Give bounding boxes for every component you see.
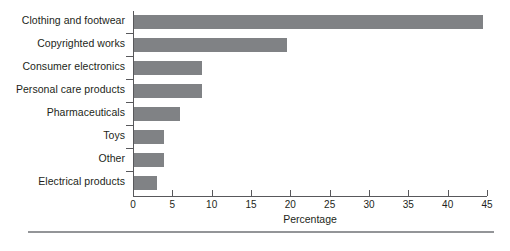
x-axis-tick-label: 40	[428, 199, 468, 211]
x-axis-tick	[251, 190, 252, 196]
x-axis-tick	[330, 190, 331, 196]
x-axis-tick	[133, 190, 134, 196]
x-axis-tick-label: 5	[152, 199, 192, 211]
x-axis-tick	[408, 190, 409, 196]
x-axis-tick-label: 45	[467, 199, 507, 211]
figure-bar-chart-counterfeit-goods: Clothing and footwear Copyrighted works …	[0, 0, 510, 251]
x-axis-tick-label: 35	[388, 199, 428, 211]
x-axis-tick	[290, 190, 291, 196]
chart-plot-area: Clothing and footwear Copyrighted works …	[0, 0, 510, 251]
x-axis-tick-label: 30	[349, 199, 389, 211]
x-axis-tick-label: 0	[113, 199, 153, 211]
figure-divider-rule	[28, 231, 494, 233]
x-axis-tick	[212, 190, 213, 196]
x-axis-tick-label: 10	[192, 199, 232, 211]
x-axis-tick	[448, 190, 449, 196]
x-axis-tick-label: 15	[231, 199, 271, 211]
x-axis-tick-label: 25	[310, 199, 350, 211]
x-axis-tick	[369, 190, 370, 196]
x-axis-title: Percentage	[133, 213, 487, 226]
x-axis-tick	[487, 190, 488, 196]
x-axis-tick	[172, 190, 173, 196]
x-axis-tick-label: 20	[270, 199, 310, 211]
